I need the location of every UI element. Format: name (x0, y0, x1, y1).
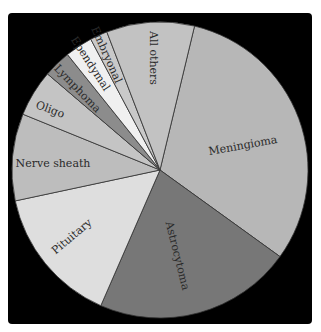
pie-chart: MeningiomaAstrocytomaPituitaryNerve shea… (0, 0, 321, 332)
slice-label-nerve-sheath: Nerve sheath (16, 157, 91, 170)
slice-label-all-others: All others (147, 30, 160, 85)
